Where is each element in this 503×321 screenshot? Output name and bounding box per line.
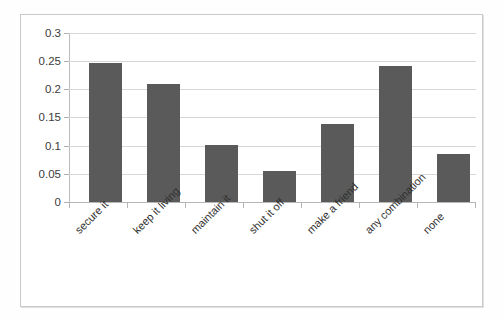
x-tick-mark-4 — [301, 203, 302, 208]
y-tick-label-0: 0 — [25, 197, 61, 209]
chart-screenshot: 0.3 0.25 0.2 0.15 0.1 0.05 0 — [0, 0, 503, 321]
gridline-0.3 — [69, 33, 476, 34]
y-tick-label-0.25: 0.25 — [25, 56, 61, 68]
x-axis-category-labels: secure it keep it living maintain it shu… — [69, 211, 489, 306]
x-tick-mark-3 — [243, 203, 244, 208]
x-tick-mark-7 — [475, 203, 476, 208]
y-tick-label-0.1: 0.1 — [25, 141, 61, 153]
y-axis-tick-labels: 0.3 0.25 0.2 0.15 0.1 0.05 0 — [21, 15, 61, 308]
gridline-0.2 — [69, 89, 476, 90]
bar-keep-it-living[interactable] — [147, 84, 180, 202]
gridline-0.1 — [69, 146, 476, 147]
y-tick-label-0.05: 0.05 — [25, 169, 61, 181]
gridline-0.15 — [69, 117, 476, 118]
x-tick-mark-0 — [69, 203, 70, 208]
x-tick-mark-1 — [127, 203, 128, 208]
x-tick-mark-6 — [417, 203, 418, 208]
y-tick-label-0.15: 0.15 — [25, 112, 61, 124]
gridline-0.25 — [69, 61, 476, 62]
x-tick-mark-2 — [185, 203, 186, 208]
bar-none[interactable] — [437, 154, 470, 202]
chart-frame: 0.3 0.25 0.2 0.15 0.1 0.05 0 — [20, 14, 483, 307]
y-tick-label-0.3: 0.3 — [25, 28, 61, 40]
y-tick-label-0.2: 0.2 — [25, 84, 61, 96]
x-tick-mark-5 — [359, 203, 360, 208]
x-label-none: none — [421, 211, 446, 236]
x-label-secure-it: secure it — [73, 199, 110, 236]
bar-secure-it[interactable] — [89, 63, 122, 202]
